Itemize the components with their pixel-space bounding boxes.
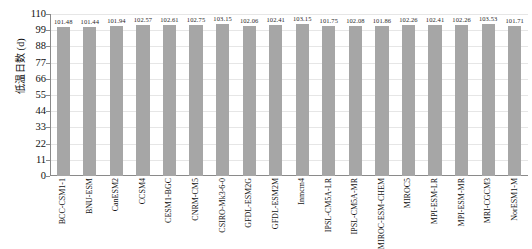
bar-group: 102.57	[136, 14, 149, 176]
y-axis-tick-label: 88	[14, 41, 46, 51]
bar-value-label: 101.75	[320, 17, 338, 24]
y-axis-tick-labels: 1109988776655443322110	[14, 14, 46, 176]
y-axis-tick-label: 66	[14, 74, 46, 84]
x-axis-category-label: BNU-ESM	[86, 178, 94, 214]
bar	[322, 26, 335, 176]
bar	[349, 26, 362, 176]
bar-group: 101.71	[508, 14, 521, 176]
y-axis-tick-label: 55	[14, 90, 46, 100]
x-axis-label-slot: BNU-ESM	[77, 178, 104, 240]
bar-value-label: 101.86	[373, 17, 391, 24]
bar	[428, 25, 441, 176]
y-axis-tick-label: 77	[14, 58, 46, 68]
y-axis-tick-label: 22	[14, 139, 46, 149]
x-axis-category-label: MIROC5	[404, 178, 412, 208]
bar-group: 103.15	[296, 14, 309, 176]
x-axis-category-label: MPI-ESM-MR	[458, 178, 466, 226]
x-axis-label-slot: CSIRO-Mk3-6-0	[209, 178, 236, 240]
bar	[455, 25, 468, 176]
x-axis-label-slot: MPI-ESM-MR	[448, 178, 475, 240]
x-axis-category-label: MPI-ESM-LR	[431, 178, 439, 224]
bar-group: 101.94	[110, 14, 123, 176]
bar-group: 102.08	[349, 14, 362, 176]
x-axis-label-slot: IPSL-CM5A-LR	[316, 178, 343, 240]
y-axis-tick-label: 99	[14, 25, 46, 35]
x-axis-label-slot: IPSL-CM5A-MR	[342, 178, 369, 240]
x-axis-category-label: CESM1-BGC	[165, 178, 173, 223]
bar-value-label: 103.53	[479, 15, 497, 22]
bar-group: 103.53	[482, 14, 495, 176]
bar	[189, 25, 202, 176]
x-axis-label-slot: MRI-CGCM3	[475, 178, 502, 240]
bar-group: 101.86	[375, 14, 388, 176]
bar-value-label: 102.57	[134, 16, 152, 23]
x-axis-category-label: IPSL-CM5A-LR	[325, 178, 333, 232]
bar-value-label: 102.26	[399, 16, 417, 23]
bar	[243, 26, 256, 176]
bar	[57, 27, 70, 176]
bar-value-label: 101.44	[81, 18, 99, 25]
bar-group: 102.41	[428, 14, 441, 176]
x-axis-category-label: NorESM1-M	[511, 178, 519, 221]
x-axis-category-label: CanESM2	[112, 178, 120, 211]
bar	[375, 26, 388, 176]
x-axis-category-label: BCC-CSM1-1	[59, 178, 67, 224]
x-axis-category-label: CSIRO-Mk3-6-0	[219, 178, 227, 233]
x-axis-label-slot: CanESM2	[103, 178, 130, 240]
y-axis-tick-label: 11	[14, 155, 46, 165]
y-axis-tick-label: 44	[14, 106, 46, 116]
bar	[269, 25, 282, 176]
bar-value-label: 101.94	[107, 17, 125, 24]
bar-value-label: 101.48	[54, 18, 72, 25]
x-axis-label-slot: MPI-ESM-LR	[422, 178, 449, 240]
y-axis-tick-label: 33	[14, 122, 46, 132]
x-axis-category-label: MRI-CGCM3	[484, 178, 492, 223]
bar-value-label: 102.41	[266, 16, 284, 23]
x-axis-label-slot: NorESM1-M	[501, 178, 528, 240]
bar-group: 102.26	[455, 14, 468, 176]
x-axis-label-slot: GFDL-ESM2G	[236, 178, 263, 240]
bar-group: 103.15	[216, 14, 229, 176]
bar-value-label: 103.15	[213, 15, 231, 22]
x-axis-label-slot: CNRM-CM5	[183, 178, 210, 240]
bar-value-label: 102.61	[160, 16, 178, 23]
x-axis-category-label: IPSL-CM5A-MR	[351, 178, 359, 234]
bar	[110, 26, 123, 176]
bar-group: 102.06	[243, 14, 256, 176]
x-axis-label-slot: MIROC5	[395, 178, 422, 240]
bar-value-label: 102.41	[426, 16, 444, 23]
bar-group: 102.75	[189, 14, 202, 176]
bar	[402, 25, 415, 176]
bar	[296, 24, 309, 176]
bar-group: 102.26	[402, 14, 415, 176]
bar-group: 102.41	[269, 14, 282, 176]
bar-value-label: 102.08	[346, 17, 364, 24]
bar-value-label: 102.26	[452, 16, 470, 23]
bar-value-label: 102.06	[240, 17, 258, 24]
bar	[508, 26, 521, 176]
bar	[482, 24, 495, 176]
plot-area: 101.48101.44101.94102.57102.61102.75103.…	[50, 14, 528, 176]
x-axis-category-label: CNRM-CM5	[192, 178, 200, 221]
bar	[83, 27, 96, 176]
bar	[136, 25, 149, 176]
x-axis-category-label: GFDL-ESM2G	[245, 178, 253, 228]
bar-value-label: 102.75	[187, 16, 205, 23]
bar-group: 101.48	[57, 14, 70, 176]
x-axis-label-slot: MIROC-ESM-CHEM	[369, 178, 396, 240]
x-axis-category-label: GFDL-ESM2M	[272, 178, 280, 229]
x-axis-label-slot: BCC-CSM1-1	[50, 178, 77, 240]
x-axis-category-labels: BCC-CSM1-1BNU-ESMCanESM2CCSM4CESM1-BGCCN…	[50, 178, 528, 240]
x-axis-label-slot: CESM1-BGC	[156, 178, 183, 240]
x-axis-label-slot: GFDL-ESM2M	[262, 178, 289, 240]
bar-group: 101.44	[83, 14, 96, 176]
bar-group: 102.61	[163, 14, 176, 176]
bars-layer: 101.48101.44101.94102.57102.61102.75103.…	[50, 14, 528, 176]
bar	[216, 24, 229, 176]
y-axis-tick-label: 110	[14, 9, 46, 19]
x-axis-category-label: MIROC-ESM-CHEM	[378, 178, 386, 249]
x-axis-category-label: CCSM4	[139, 178, 147, 204]
x-axis-label-slot: Inmcm4	[289, 178, 316, 240]
bar	[163, 25, 176, 176]
